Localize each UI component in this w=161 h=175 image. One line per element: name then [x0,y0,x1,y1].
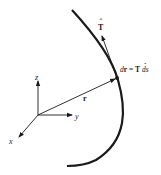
tangent-hat: ˆ [99,18,102,27]
curve-point [115,76,119,80]
y-axis-label: y [74,112,79,121]
position-vector-label: r [83,94,87,103]
position-vector-r [38,79,115,115]
diagram-canvas: z y x r T ˆ dr = T ds ˆ [0,0,161,175]
diagram-svg: z y x r T ˆ dr = T ds ˆ [0,0,161,175]
coordinate-axes [19,81,72,137]
differential-equation: dr = T ds ˆ [120,61,149,74]
x-axis [19,115,38,137]
eq-equals: = [127,65,135,74]
x-axis-label: x [8,137,13,146]
z-axis-label: z [34,73,39,82]
tangent-vector [102,36,117,78]
